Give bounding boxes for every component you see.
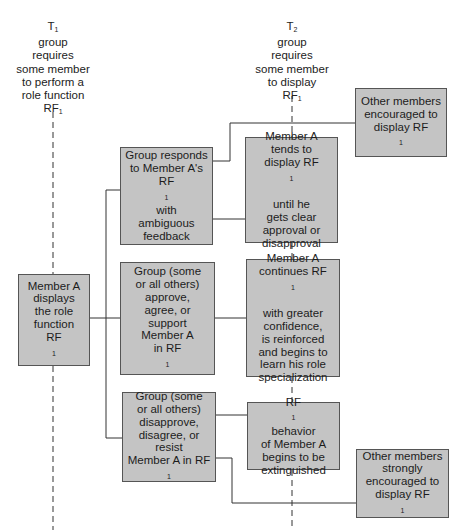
box-member-a-tends: Member A tends to display RF1 until he g… (245, 137, 338, 243)
box-group-ambiguous: Group responds to Member A's RF1 with am… (120, 147, 213, 245)
box-group-approve: Group (some or all others) approve, agre… (120, 262, 215, 375)
box-others-strongly-encouraged: Other members strongly encouraged to dis… (356, 449, 449, 518)
box-member-a-continues: Member A continues RF1 with greater conf… (246, 259, 340, 377)
t2-label: T2 group requires some member to display… (242, 20, 342, 105)
box-member-a-displays: Member A displays the role function RF1 (18, 274, 90, 366)
box-rf1-extinguished: RF1 behavior of Member A begins to be ex… (247, 402, 340, 470)
box-others-encouraged: Other members encouraged to display RF1 (355, 88, 447, 157)
box-group-disapprove: Group (some or all others) disapprove, d… (122, 392, 216, 482)
t1-label: T1 group requires some member to perform… (2, 20, 104, 118)
diagram-canvas: T1 group requires some member to perform… (0, 0, 462, 530)
